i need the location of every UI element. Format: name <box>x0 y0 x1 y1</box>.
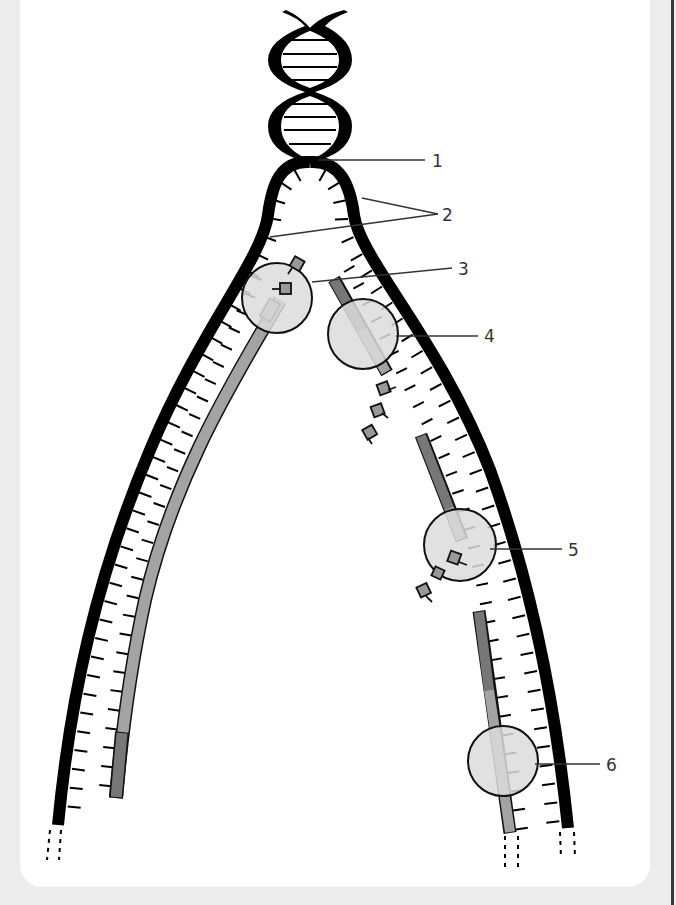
callout-label-3: 3 <box>458 259 469 279</box>
callout-label-2: 2 <box>442 205 453 225</box>
okazaki-fragment-6 <box>479 611 510 833</box>
callout-label-1: 1 <box>432 151 443 171</box>
enzyme-circle-4 <box>328 299 398 369</box>
enzyme-circle-left-top <box>242 263 312 333</box>
callout-labels: 123456 <box>432 151 617 775</box>
replication-fork-diagram: 123456 <box>0 0 676 905</box>
enzyme-circle-6 <box>468 726 538 796</box>
callout-label-6: 6 <box>606 755 617 775</box>
callout-label-5: 5 <box>568 540 579 560</box>
continuation-dashes <box>47 830 575 870</box>
double-helix <box>268 10 352 160</box>
callout-label-4: 4 <box>484 326 495 346</box>
leader-line-2 <box>362 198 438 214</box>
